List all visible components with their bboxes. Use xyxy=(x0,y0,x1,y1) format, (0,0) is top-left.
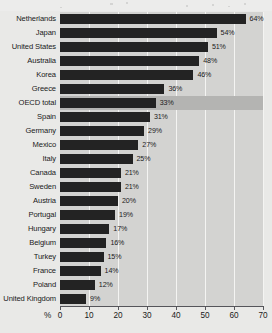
bar xyxy=(60,196,118,205)
bar xyxy=(60,70,193,79)
x-axis-tick-label: 60 xyxy=(222,311,246,320)
bar-row: Germany29% xyxy=(0,124,272,138)
bar-chart: Netherlands64%Japan54%United States51%Au… xyxy=(0,0,272,333)
value-label: 48% xyxy=(203,54,217,68)
x-axis-tick xyxy=(205,306,206,310)
bar-row: Canada21% xyxy=(0,166,272,180)
category-label: Turkey xyxy=(0,250,56,264)
value-label: 64% xyxy=(250,12,264,26)
bar-row: Spain31% xyxy=(0,110,272,124)
bar xyxy=(60,140,138,149)
bar xyxy=(60,14,246,23)
value-label: 29% xyxy=(148,124,162,138)
bar xyxy=(60,266,101,275)
x-axis-unit-label: % xyxy=(44,311,51,320)
value-label: 31% xyxy=(154,110,168,124)
bar-row: Australia48% xyxy=(0,54,272,68)
x-axis-tick-label: 70 xyxy=(251,311,272,320)
x-axis-tick xyxy=(147,306,148,310)
bar xyxy=(60,294,86,303)
category-label: Hungary xyxy=(0,222,56,236)
value-label: 33% xyxy=(160,96,174,110)
value-label: 17% xyxy=(113,222,127,236)
value-label: 20% xyxy=(122,194,136,208)
category-label: Spain xyxy=(0,110,56,124)
value-label: 51% xyxy=(212,40,226,54)
bar xyxy=(60,182,121,191)
x-axis-line xyxy=(60,306,263,307)
x-axis-tick xyxy=(176,306,177,310)
x-axis-tick xyxy=(263,306,264,310)
bar-row: Italy25% xyxy=(0,152,272,166)
bar-row: United States51% xyxy=(0,40,272,54)
x-axis-tick-label: 40 xyxy=(164,311,188,320)
value-label: 27% xyxy=(142,138,156,152)
bar xyxy=(60,98,156,107)
category-label: Italy xyxy=(0,152,56,166)
category-label: Korea xyxy=(0,68,56,82)
bar xyxy=(60,126,144,135)
category-label: Germany xyxy=(0,124,56,138)
bar xyxy=(60,56,199,65)
bar-row: Korea46% xyxy=(0,68,272,82)
bar xyxy=(60,210,115,219)
x-axis-tick xyxy=(60,306,61,310)
bar xyxy=(60,238,106,247)
bar xyxy=(60,28,217,37)
category-label: France xyxy=(0,264,56,278)
value-label: 21% xyxy=(125,166,139,180)
bar-row: France14% xyxy=(0,264,272,278)
x-axis-tick-label: 0 xyxy=(48,311,72,320)
bar-row: Sweden21% xyxy=(0,180,272,194)
category-label: Japan xyxy=(0,26,56,40)
value-label: 25% xyxy=(137,152,151,166)
value-label: 19% xyxy=(119,208,133,222)
bar-row: United Kingdom9% xyxy=(0,292,272,306)
bar-row: Belgium16% xyxy=(0,236,272,250)
bar xyxy=(60,154,133,163)
bar-row: Netherlands64% xyxy=(0,12,272,26)
category-label: Austria xyxy=(0,194,56,208)
bar-row: Poland12% xyxy=(0,278,272,292)
category-label: OECD total xyxy=(0,96,56,110)
value-label: 46% xyxy=(197,68,211,82)
bar-row: Austria20% xyxy=(0,194,272,208)
category-label: Portugal xyxy=(0,208,56,222)
category-label: Australia xyxy=(0,54,56,68)
bar-row: Japan54% xyxy=(0,26,272,40)
value-label: 9% xyxy=(90,292,100,306)
category-label: Canada xyxy=(0,166,56,180)
category-label: Mexico xyxy=(0,138,56,152)
bar xyxy=(60,252,104,261)
bar xyxy=(60,42,208,51)
value-label: 21% xyxy=(125,180,139,194)
category-label: United Kingdom xyxy=(0,292,56,306)
category-label: Belgium xyxy=(0,236,56,250)
value-label: 14% xyxy=(105,264,119,278)
bar xyxy=(60,84,164,93)
bar xyxy=(60,112,150,121)
category-label: Poland xyxy=(0,278,56,292)
bar xyxy=(60,280,95,289)
value-label: 36% xyxy=(168,82,182,96)
x-axis-tick xyxy=(89,306,90,310)
x-axis-tick xyxy=(118,306,119,310)
bar-row: Greece36% xyxy=(0,82,272,96)
value-label: 12% xyxy=(99,278,113,292)
x-axis-tick-label: 50 xyxy=(193,311,217,320)
bar xyxy=(60,168,121,177)
x-axis-tick-label: 30 xyxy=(135,311,159,320)
bar-row: Portugal19% xyxy=(0,208,272,222)
bar-row: Turkey15% xyxy=(0,250,272,264)
value-label: 15% xyxy=(108,250,122,264)
category-label: Greece xyxy=(0,82,56,96)
value-label: 16% xyxy=(110,236,124,250)
category-label: Sweden xyxy=(0,180,56,194)
category-label: Netherlands xyxy=(0,12,56,26)
bar-row: OECD total33% xyxy=(0,96,272,110)
bar-row: Mexico27% xyxy=(0,138,272,152)
bar-row: Hungary17% xyxy=(0,222,272,236)
value-label: 54% xyxy=(221,26,235,40)
category-label: United States xyxy=(0,40,56,54)
x-axis-tick-label: 20 xyxy=(106,311,130,320)
